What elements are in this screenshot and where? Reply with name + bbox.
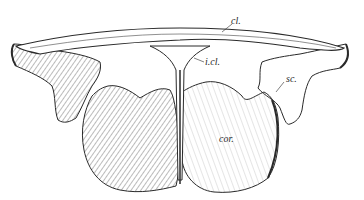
- girdle-drawing: [0, 0, 364, 200]
- interclavicle-label: i.cl.: [205, 57, 220, 67]
- interclavicle-leader: [194, 58, 204, 62]
- pectoral-girdle-figure: cl. i.cl. sc. cor.: [0, 0, 364, 200]
- clavicle-label: cl.: [231, 16, 241, 26]
- left-coracoid: [82, 86, 179, 192]
- coracoid-label: cor.: [219, 134, 234, 144]
- scapula-label: sc.: [286, 74, 297, 84]
